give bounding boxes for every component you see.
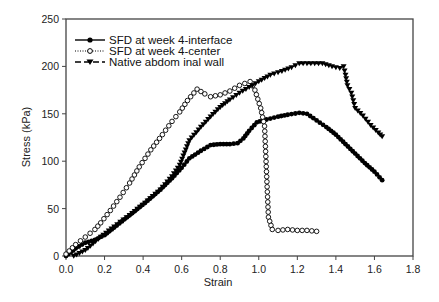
x-tick-label: 0.0 — [59, 263, 74, 275]
y-tick-label: 0 — [53, 250, 59, 262]
open-circle-marker-icon — [88, 49, 93, 54]
series-1 — [64, 79, 319, 256]
y-tick-label: 200 — [41, 60, 59, 72]
y-axis: 050100150200250 — [41, 13, 66, 262]
legend: SFD at week 4-interface SFD at week 4-ce… — [75, 34, 232, 68]
legend-item-native: Native abdom inal wall — [75, 56, 224, 68]
legend-label: Native abdom inal wall — [109, 56, 224, 68]
x-tick-label: 0.6 — [174, 263, 189, 275]
x-tick-label: 1.6 — [367, 263, 382, 275]
x-tick-label: 1.2 — [290, 263, 305, 275]
x-tick-label: 0.2 — [97, 263, 112, 275]
data-series — [64, 61, 386, 258]
filled-circle-marker-icon — [87, 37, 92, 42]
y-tick-label: 150 — [41, 108, 59, 120]
x-tick-label: 1.8 — [406, 263, 421, 275]
x-tick-label: 0.8 — [213, 263, 228, 275]
x-axis: 0.00.20.40.60.81.01.21.41.61.8 — [59, 256, 421, 275]
x-tick-label: 1.4 — [329, 263, 344, 275]
stress-strain-chart: 050100150200250 0.00.20.40.60.81.01.21.4… — [0, 0, 439, 302]
x-tick-label: 0.4 — [136, 263, 151, 275]
y-axis-label: Stress (kPa) — [20, 107, 32, 168]
y-tick-label: 250 — [41, 13, 59, 25]
series-0 — [64, 110, 385, 258]
x-axis-label: Strain — [204, 276, 233, 288]
x-tick-label: 1.0 — [251, 263, 266, 275]
y-tick-label: 100 — [41, 155, 59, 167]
y-tick-label: 50 — [47, 203, 59, 215]
